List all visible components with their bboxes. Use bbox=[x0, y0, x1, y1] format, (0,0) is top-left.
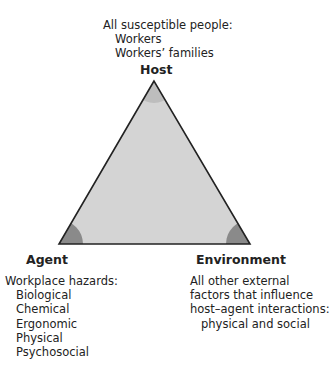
environment-description-1: All other external bbox=[190, 274, 290, 289]
environment-description-3: host–agent interactions: bbox=[190, 302, 330, 317]
agent-description: Workplace hazards: bbox=[5, 274, 118, 289]
agent-item-physical: Physical bbox=[16, 331, 63, 346]
host-item-workers: Workers bbox=[115, 32, 162, 47]
environment-label: Environment bbox=[196, 252, 286, 267]
agent-item-psychosocial: Psychosocial bbox=[16, 345, 89, 360]
host-label: Host bbox=[140, 62, 172, 77]
host-item-families: Workers’ families bbox=[115, 46, 214, 61]
agent-item-ergonomic: Ergonomic bbox=[16, 317, 77, 332]
host-description: All susceptible people: bbox=[103, 18, 233, 33]
environment-item-physical-social: physical and social bbox=[201, 317, 310, 332]
agent-item-biological: Biological bbox=[16, 288, 71, 303]
agent-label: Agent bbox=[26, 252, 68, 267]
agent-item-chemical: Chemical bbox=[16, 302, 69, 317]
environment-description-2: factors that influence bbox=[190, 288, 313, 303]
